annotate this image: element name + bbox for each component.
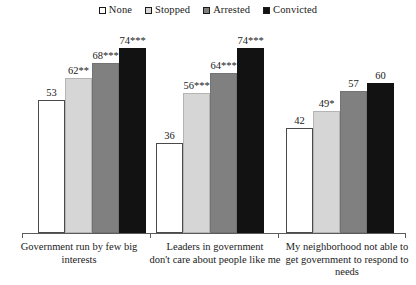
bar-g2-stopped xyxy=(313,111,340,233)
category-label-1: Leaders in government don't care about p… xyxy=(148,241,282,266)
bar-g1-arrested xyxy=(210,73,237,233)
category-label-2-line2: get government to respond to xyxy=(280,254,414,267)
category-label-2-line3: needs xyxy=(280,266,414,279)
category-label-2-line1: My neighborhood not able to xyxy=(280,241,414,254)
bar-value-g0-stopped: 62** xyxy=(62,65,95,76)
bar-value-g1-convicted: 74*** xyxy=(232,35,269,46)
bar-g1-none xyxy=(156,143,183,233)
bar-value-g1-stopped: 56*** xyxy=(178,80,215,91)
axis-tick-start xyxy=(22,233,23,238)
bar-g1-stopped xyxy=(183,93,210,233)
bar-g2-arrested xyxy=(340,91,367,233)
bar-g2-none xyxy=(286,128,313,233)
bar-value-g2-stopped: 49* xyxy=(310,98,343,109)
axis-tick-end xyxy=(405,233,406,238)
axis-tick-sep-2 xyxy=(278,233,279,238)
bar-value-g0-none: 53 xyxy=(38,87,65,98)
bar-g0-stopped xyxy=(65,78,92,233)
bar-value-g0-arrested: 68*** xyxy=(87,50,124,61)
bar-value-g2-convicted: 60 xyxy=(367,70,394,81)
category-label-0: Government run by few big interests xyxy=(14,241,144,266)
category-label-0-line2: interests xyxy=(14,254,144,267)
bar-g2-convicted xyxy=(367,83,394,233)
category-label-1-line1: Leaders in government xyxy=(148,241,282,254)
plot-area: 53 62** 68*** 74*** 36 56*** 64*** 74***… xyxy=(0,0,416,285)
bar-g0-arrested xyxy=(92,63,119,233)
category-label-0-line1: Government run by few big xyxy=(14,241,144,254)
bar-value-g2-arrested: 57 xyxy=(340,78,367,89)
axis-tick-sep-1 xyxy=(150,233,151,238)
category-label-2: My neighborhood not able to get governme… xyxy=(280,241,414,279)
bar-g0-none xyxy=(38,100,65,233)
bar-g1-convicted xyxy=(237,48,264,233)
bar-value-g2-none: 42 xyxy=(286,115,313,126)
category-label-1-line2: don't care about people like me xyxy=(148,254,282,267)
x-axis-line xyxy=(22,233,406,234)
bar-value-g1-none: 36 xyxy=(156,130,183,141)
bar-value-g0-convicted: 74*** xyxy=(114,35,151,46)
bar-g0-convicted xyxy=(119,48,146,233)
bar-chart: None Stopped Arrested Convicted 53 62** … xyxy=(0,0,416,285)
bar-value-g1-arrested: 64*** xyxy=(205,60,242,71)
